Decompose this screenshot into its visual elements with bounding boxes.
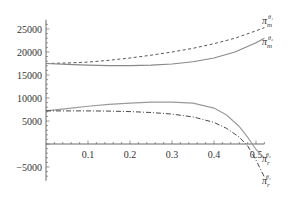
x-tick-label: 0.3 <box>166 149 179 160</box>
chart: 250002000015000100005000−50000.10.20.30.… <box>0 0 292 197</box>
curve-label-r-θ2: πrθ₂ <box>262 152 271 167</box>
y-tick-label: 5000 <box>22 116 42 127</box>
y-tick-label: 20000 <box>17 47 42 58</box>
y-tick-label: −5000 <box>16 162 42 173</box>
y-tick-label: 25000 <box>17 24 42 35</box>
curves <box>46 28 264 178</box>
curve-line <box>46 28 264 64</box>
curve-label-r-θ1: πrθ₁ <box>262 174 271 189</box>
y-tick-label: 10000 <box>17 93 42 104</box>
curve-labels: πmθ₁πmθ₂πrθ₂πrθ₁ <box>262 14 273 189</box>
x-tick-label: 0.2 <box>124 149 137 160</box>
curve-label-m-θ1: πmθ₁ <box>262 14 273 29</box>
axes: 250002000015000100005000−50000.10.20.30.… <box>16 20 264 181</box>
curve-line <box>46 38 264 65</box>
curve-label-m-θ2: πmθ₂ <box>262 35 273 50</box>
x-tick-label: 0.4 <box>208 149 221 160</box>
y-tick-label: 15000 <box>17 70 42 81</box>
x-tick-label: 0.1 <box>82 149 95 160</box>
